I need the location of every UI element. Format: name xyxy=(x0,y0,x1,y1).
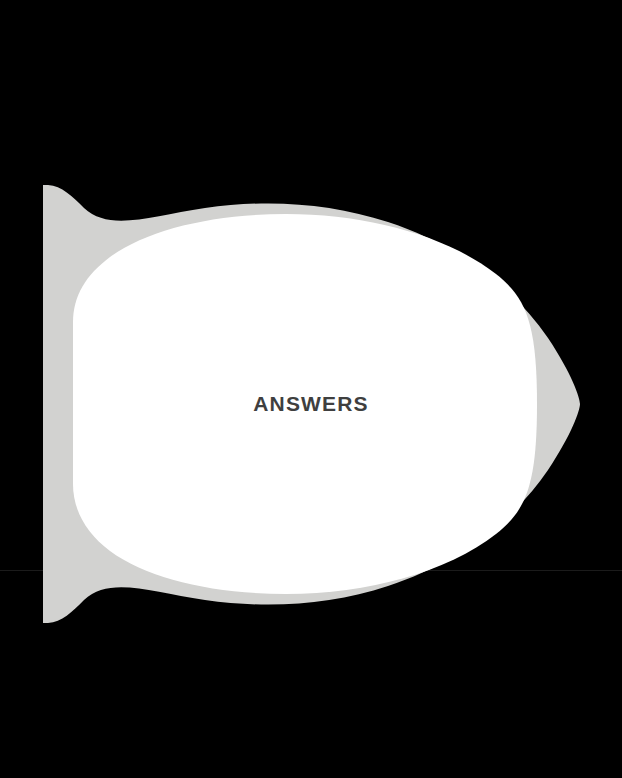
answers-tab-shape xyxy=(0,0,622,778)
answers-label: ANSWERS xyxy=(0,392,622,416)
scanned-page: ANSWERS xyxy=(0,0,622,778)
